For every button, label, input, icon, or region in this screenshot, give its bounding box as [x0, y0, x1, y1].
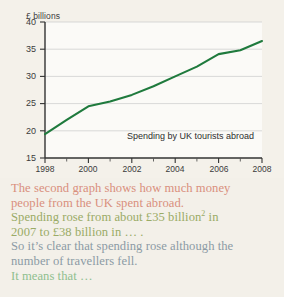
- y-tick-35: 35: [18, 44, 36, 54]
- y-tick-25: 25: [18, 98, 36, 108]
- y-tick-30: 30: [18, 71, 36, 81]
- note-line-3-text-b: in: [205, 210, 218, 224]
- x-tick-2004: 2004: [159, 164, 191, 174]
- note-line-6: number of travellers fell.: [11, 254, 276, 269]
- note-line-3-text-a: Spending rose from about £35 billion: [11, 210, 201, 224]
- y-tick-40: 40: [18, 17, 36, 27]
- series-annotation-label: Spending by UK tourists abroad: [127, 131, 254, 141]
- note-line-1: The second graph shows how much money: [11, 181, 276, 196]
- line-chart: £ billions 40 35 30 25 20 15 1998 2000 2…: [0, 0, 284, 178]
- x-tick-2002: 2002: [116, 164, 148, 174]
- note-line-5: So it’s clear that spending rose althoug…: [11, 239, 276, 254]
- x-tick-2006: 2006: [203, 164, 235, 174]
- page-root: £ billions 40 35 30 25 20 15 1998 2000 2…: [0, 0, 284, 297]
- y-tick-20: 20: [18, 126, 36, 136]
- x-tick-2008: 2008: [246, 164, 278, 174]
- handwritten-notes-block: The second graph shows how much money pe…: [0, 178, 284, 297]
- note-line-7: It means that …: [11, 269, 276, 284]
- y-tick-15: 15: [18, 153, 36, 163]
- y-axis-ticks: [40, 22, 45, 158]
- note-line-3: Spending rose from about £35 billion2 in: [11, 210, 276, 225]
- note-line-4: 2007 to £38 billion in … .: [11, 225, 276, 240]
- x-tick-2000: 2000: [72, 164, 104, 174]
- chart-canvas: [0, 0, 284, 178]
- x-tick-1998: 1998: [29, 164, 61, 174]
- note-line-2: people from the UK spent abroad.: [11, 196, 276, 211]
